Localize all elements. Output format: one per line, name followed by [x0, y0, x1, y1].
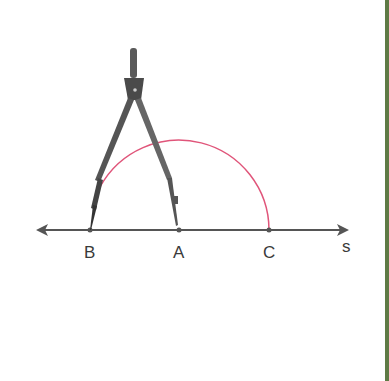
compass-construction-diagram: B A C s — [0, 0, 389, 381]
right-border — [385, 0, 389, 381]
point-a — [177, 228, 182, 233]
arc — [100, 140, 269, 230]
label-a: A — [173, 243, 185, 262]
diagram-canvas: B A C s — [0, 0, 389, 381]
label-b: B — [84, 243, 95, 262]
compass-icon — [90, 48, 178, 230]
point-c — [267, 228, 272, 233]
label-c: C — [263, 243, 275, 262]
line-s — [36, 224, 349, 236]
label-line-s: s — [342, 237, 351, 256]
